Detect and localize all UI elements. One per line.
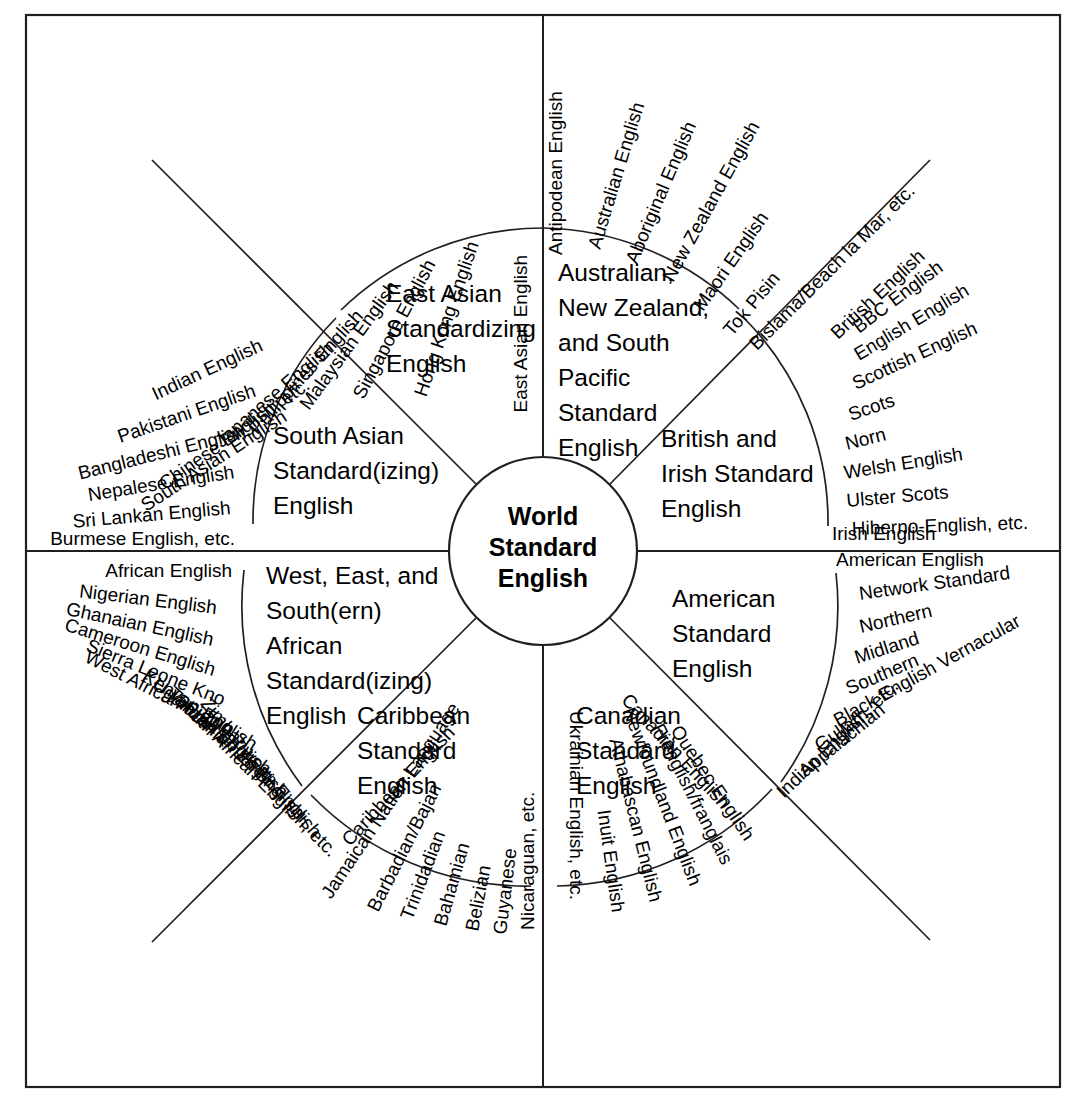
variety-label: African English <box>105 560 232 581</box>
variety-label: American English <box>836 549 984 570</box>
variety-label: Inuit English <box>594 808 629 913</box>
hub-line-0: World <box>508 502 578 530</box>
heading-line: Standard <box>558 399 657 426</box>
variety-label: Nicaraguan, etc. <box>517 792 538 930</box>
heading-line: British and <box>661 425 777 452</box>
varieties-american: American English Network Standard Northe… <box>772 549 1024 802</box>
heading-line: English <box>661 495 741 522</box>
variety-label: Ukrainian English, etc. <box>566 711 587 900</box>
variety-label: Guyanese <box>489 847 520 936</box>
heading-line: South(ern) <box>266 597 382 624</box>
heading-line: Standard(izing) <box>273 457 439 484</box>
heading-line: and South <box>558 329 670 356</box>
heading-line: English <box>273 492 353 519</box>
varieties-british-irish: British English BBC English English Engl… <box>826 245 1028 544</box>
heading-line: West, East, and <box>266 562 439 589</box>
heading-line: Pacific <box>558 364 630 391</box>
variety-label: Irish English <box>832 523 936 544</box>
heading-line: Standard <box>672 620 771 647</box>
heading-line: English <box>672 655 752 682</box>
variety-label: Scots <box>845 389 897 424</box>
heading-line: Standard(izing) <box>266 667 432 694</box>
heading-line: American <box>672 585 775 612</box>
heading-line: English <box>558 434 638 461</box>
heading-line: African <box>266 632 342 659</box>
variety-label: Antipodean English <box>545 91 566 255</box>
hub-line-2: English <box>498 564 588 592</box>
variety-label: East Asian English <box>510 255 531 412</box>
variety-label: Indian English, etc. <box>772 675 902 802</box>
heading-line: New Zealand, <box>558 294 709 321</box>
variety-label: Norn <box>843 424 888 454</box>
world-standard-english-diagram: World Standard English East Asian Standa… <box>0 0 1076 1106</box>
heading-line: Australian, <box>558 259 674 286</box>
varieties-south-asian: South Asian English Indian English Pakis… <box>50 335 290 549</box>
variety-label: Burmese English, etc. <box>50 528 235 549</box>
sector-heading-american: American Standard English <box>672 585 775 682</box>
heading-line: South Asian <box>273 422 404 449</box>
variety-label: Ulster Scots <box>846 481 950 511</box>
sector-heading-british-irish: British and Irish Standard English <box>661 425 814 522</box>
heading-line: Irish Standard <box>661 460 814 487</box>
hub-line-1: Standard <box>489 533 597 561</box>
heading-line: English <box>266 702 346 729</box>
varieties-caribbean: Caribbean English Jamaican Nation Langua… <box>317 699 538 936</box>
variety-label: Northern <box>857 600 934 637</box>
sector-heading-south-asian: South Asian Standard(izing) English <box>273 422 439 519</box>
